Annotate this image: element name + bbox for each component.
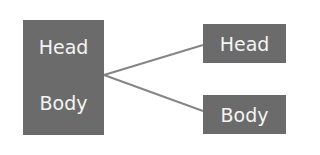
- connector-to-body: [104, 75, 203, 111]
- connector-to-head: [104, 45, 203, 75]
- source-node: Head Body: [23, 20, 104, 135]
- target-body-label: Body: [221, 104, 269, 126]
- target-head-label: Head: [220, 33, 270, 55]
- source-body-label: Body: [23, 92, 104, 114]
- target-node-head: Head: [203, 24, 286, 63]
- target-node-body: Body: [203, 95, 286, 134]
- source-head-label: Head: [23, 36, 104, 58]
